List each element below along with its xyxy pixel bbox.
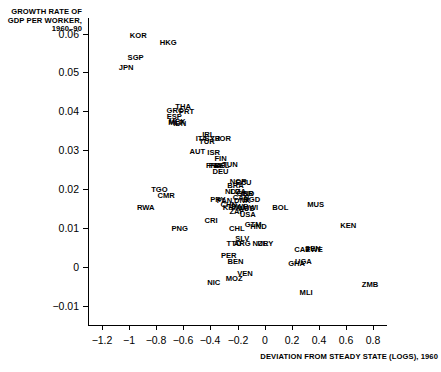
data-point-label: ZWE (306, 246, 323, 254)
x-tick (210, 325, 211, 330)
x-tick-label: 0.8 (353, 335, 393, 345)
y-tick-label: 0.01 (31, 223, 79, 233)
x-axis-title: DEVIATION FROM STEADY STATE (LOGS), 1960 (228, 352, 438, 361)
y-tick-label: −0.01 (31, 301, 79, 311)
x-tick (129, 325, 130, 330)
data-point-label: JOR (215, 135, 231, 143)
y-tick (83, 111, 88, 112)
y-tick-label: 0.06 (31, 29, 79, 39)
y-tick (83, 306, 88, 307)
data-point-label: HKG (160, 39, 177, 47)
data-point-label: ARG (234, 240, 251, 248)
y-tick (83, 34, 88, 35)
x-tick (346, 325, 347, 330)
data-point-label: KEN (340, 222, 356, 230)
data-point-label: MUS (307, 201, 324, 209)
data-point-label: SGP (128, 54, 144, 62)
x-tick (238, 325, 239, 330)
data-point-label: PNG (171, 225, 187, 233)
data-point-label: CHL (229, 225, 245, 233)
data-point-label: CRI (204, 217, 217, 225)
data-point-label: UGA (295, 258, 312, 266)
y-tick-label: 0 (31, 262, 79, 272)
data-point-label: MOZ (226, 275, 243, 283)
data-point-label: AUT (190, 148, 206, 156)
y-tick-label: 0.05 (31, 67, 79, 77)
y-tick (83, 228, 88, 229)
data-point-label: IDN (173, 120, 186, 128)
data-point-label: PRY (210, 196, 225, 204)
data-point-label: USA (240, 211, 256, 219)
data-point-label: HND (250, 223, 266, 231)
y-tick (83, 189, 88, 190)
x-tick (319, 325, 320, 330)
x-tick (156, 325, 157, 330)
scatter-plot: GROWTH RATE OF GDP PER WORKER, 1960–90 D… (0, 0, 441, 372)
x-tick (373, 325, 374, 330)
y-tick-label: 0.03 (31, 145, 79, 155)
y-tick (83, 72, 88, 73)
data-point-label: KOR (130, 32, 147, 40)
y-tick (83, 267, 88, 268)
x-tick (292, 325, 293, 330)
data-point-label: JPN (119, 64, 134, 72)
data-point-label: BEN (227, 258, 243, 266)
x-tick (183, 325, 184, 330)
data-point-label: URY (258, 240, 274, 248)
data-point-label: NIC (207, 279, 220, 287)
data-point-label: RWA (137, 204, 155, 212)
data-point-label: CMR (157, 192, 174, 200)
x-tick (265, 325, 266, 330)
data-point-label: ZMB (362, 281, 378, 289)
data-point-label: BOL (272, 204, 288, 212)
y-tick-label: 0.02 (31, 184, 79, 194)
x-tick (102, 325, 103, 330)
y-tick (83, 150, 88, 151)
y-tick-label: 0.04 (31, 106, 79, 116)
data-point-label: DEU (212, 168, 228, 176)
data-point-label: MLI (300, 289, 313, 297)
y-axis-line (88, 18, 89, 325)
